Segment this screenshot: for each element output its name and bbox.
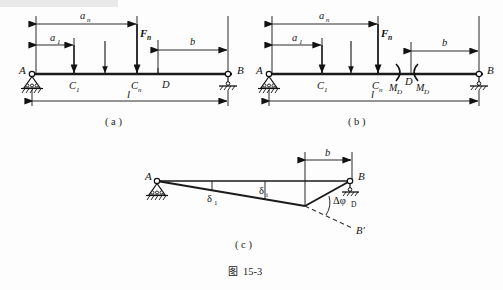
panel-c: b Δφ D δ 1 δ i A: [144, 147, 365, 251]
panel-a-sublabel: ( a ): [105, 116, 122, 128]
support-b-label: B: [237, 64, 244, 76]
deflection-deltai-symbol: δ: [259, 185, 264, 196]
support-b-label-c: B: [358, 170, 365, 182]
deflected-bprime-label: B′: [356, 225, 365, 236]
rotation-sub: D: [351, 200, 357, 209]
panel-b-sublabel: ( b ): [348, 116, 366, 128]
dim-an-sub: n: [87, 16, 91, 24]
node-d-label: D: [161, 79, 170, 90]
dim-l-b: l: [269, 88, 479, 106]
moment-arc-right: [414, 64, 418, 81]
dim-l-label: l: [127, 88, 130, 100]
figure-caption: 图 15-3: [228, 266, 262, 277]
dim-a1-sub: 1: [57, 38, 61, 46]
node-d-label-b: D: [404, 76, 413, 87]
dim-a1-a: a 1: [37, 32, 74, 74]
support-b-label-b: B: [487, 64, 494, 76]
load-fn-sub: n: [147, 33, 151, 42]
moment-md-left-sub: D: [396, 88, 402, 96]
deflection-delta1-symbol: δ: [207, 193, 212, 204]
figure-15-3-svg: a n a 1 b: [0, 0, 503, 290]
dim-an-sub-b: n: [326, 16, 330, 24]
support-a-label: A: [18, 64, 26, 76]
figure-page: a n a 1 b: [0, 0, 503, 290]
dim-b-b: b: [411, 16, 479, 74]
panel-c-sublabel: ( c ): [235, 239, 252, 251]
figure-caption-cn: 图: [228, 266, 238, 277]
dim-an-label-b: a: [319, 10, 324, 21]
dim-b-label: b: [190, 36, 195, 47]
moment-md-right-sub: D: [423, 88, 429, 96]
support-a-pin-c: A: [144, 170, 168, 200]
dim-an-b: a n: [272, 10, 378, 74]
dim-an-label: a: [80, 10, 85, 21]
dim-b-a: b: [158, 16, 228, 74]
load-fn-sub-b: n: [388, 33, 392, 42]
scan-smudge: [0, 0, 118, 7]
node-cn-sub: n: [138, 86, 142, 94]
panel-b: a n a 1 b: [255, 10, 494, 128]
load-arrows-b: [322, 24, 378, 73]
dim-a1-b: a 1: [273, 32, 322, 74]
support-a-label-c: A: [144, 170, 152, 182]
moment-arc-left: [396, 64, 400, 81]
rotation-angle-arc: [326, 196, 330, 215]
support-b-roller-b: B: [470, 64, 494, 90]
node-cn-sub-b: n: [379, 86, 383, 94]
support-b-roller: B: [219, 64, 244, 90]
dim-l-label-b: l: [371, 88, 374, 100]
support-a-label-b: A: [255, 64, 263, 76]
node-c1-sub: 1: [76, 86, 80, 94]
figure-caption-number: 15-3: [243, 266, 262, 277]
support-a-pin: A: [18, 64, 43, 93]
load-arrows-a: [74, 24, 137, 73]
dim-b-label-b: b: [442, 37, 447, 48]
dim-a1-label: a: [50, 32, 55, 43]
dim-a1-label-b: a: [292, 32, 297, 43]
deflection-delta1-sub: 1: [214, 199, 218, 207]
dim-l-a: l: [32, 88, 228, 106]
panel-a: a n a 1 b: [18, 10, 244, 128]
deflected-line-a-d: [157, 181, 305, 206]
support-a-pin-b: A: [255, 64, 280, 93]
dim-a1-sub-b: 1: [299, 38, 303, 46]
dim-b-label-c: b: [325, 147, 330, 158]
deflection-deltai-sub: i: [266, 191, 268, 199]
rotation-symbol: Δφ: [333, 195, 346, 206]
node-c1-sub-b: 1: [324, 86, 328, 94]
